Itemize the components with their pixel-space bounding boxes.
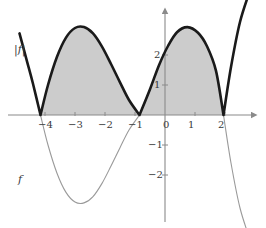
x-tick-label-2: 2 <box>218 120 224 130</box>
x-tick-label-0: 0 <box>163 120 169 130</box>
x-tick-label--4: −4 <box>38 120 53 130</box>
figure-container: −4−3−2−101221−1−2 |f| f <box>0 0 266 228</box>
x-tick-label--3: −3 <box>68 120 83 130</box>
y-tick-label-2: 2 <box>154 50 160 60</box>
x-tick-label--2: −2 <box>98 120 113 130</box>
x-tick-label-1: 1 <box>188 120 194 130</box>
shaded-region <box>41 27 224 115</box>
y-tick-label-1: 1 <box>154 80 160 90</box>
y-tick-label--2: −2 <box>148 170 163 180</box>
curve-label-abs-f: |f| <box>14 44 25 55</box>
x-tick-label--1: −1 <box>128 120 143 130</box>
shaded-area-group <box>41 27 224 115</box>
y-tick-label--1: −1 <box>148 140 163 150</box>
graph-plot <box>0 0 266 228</box>
curve-label-f: f <box>18 174 22 185</box>
